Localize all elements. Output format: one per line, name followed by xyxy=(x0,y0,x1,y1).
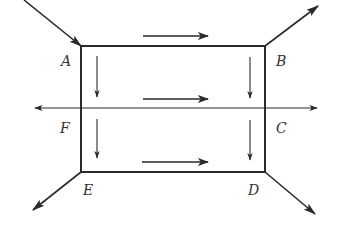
label-c: C xyxy=(276,120,287,136)
outgoing-line-from-b xyxy=(265,6,318,46)
label-a: A xyxy=(59,53,71,69)
label-f: F xyxy=(59,120,71,136)
incoming-line-to-a xyxy=(24,0,81,46)
outgoing-line-from-d xyxy=(265,172,315,214)
label-e: E xyxy=(82,182,93,198)
frame-rectangle xyxy=(81,46,265,172)
label-d: D xyxy=(247,182,259,198)
outgoing-line-from-e xyxy=(33,172,81,210)
label-b: B xyxy=(275,53,286,69)
frame-diagram: A B F C E D xyxy=(0,0,343,246)
